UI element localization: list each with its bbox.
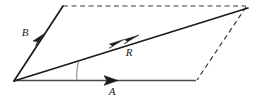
vector-a-label: A — [108, 85, 116, 97]
vector-b-label: B — [22, 26, 29, 38]
vector-parallelogram-figure: B R A — [0, 0, 258, 101]
vector-r-label: R — [125, 46, 133, 58]
vector-diagram-canvas: B R A — [0, 0, 258, 101]
